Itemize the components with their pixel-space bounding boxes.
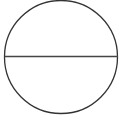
circle-diagram [0, 0, 119, 123]
